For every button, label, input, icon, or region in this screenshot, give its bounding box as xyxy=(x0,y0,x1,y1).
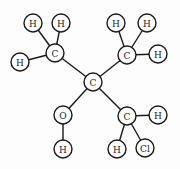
atom-label: O xyxy=(59,111,66,121)
atom-h_ur_1: H xyxy=(107,14,125,32)
atom-label: H xyxy=(16,58,24,68)
atom-h_ul_3: H xyxy=(11,53,29,71)
atom-cl: Cl xyxy=(136,139,154,157)
atom-h_ur_2: H xyxy=(138,14,156,32)
atom-h_ul_2: H xyxy=(52,14,70,32)
atom-label: H xyxy=(143,19,151,29)
atom-label: H xyxy=(59,145,67,155)
atom-c_center: C xyxy=(84,73,102,91)
atom-h_ur_3: H xyxy=(149,45,167,63)
atom-c_lr: C xyxy=(118,107,136,125)
atom-label: C xyxy=(124,51,131,61)
atom-c_ul: C xyxy=(46,44,64,62)
atom-o: O xyxy=(54,106,72,124)
atom-h_ul_1: H xyxy=(24,14,42,32)
atom-label: H xyxy=(113,145,121,155)
atom-h_lr_1: H xyxy=(149,106,167,124)
atom-label: C xyxy=(124,112,131,122)
atom-label: Cl xyxy=(140,144,150,154)
atoms-layer: CCHHHCHHHOHCHHCl xyxy=(11,14,167,158)
atom-label: H xyxy=(154,111,162,121)
atom-c_ur: C xyxy=(118,46,136,64)
atom-label: C xyxy=(52,49,59,59)
atom-h_lr_2: H xyxy=(108,140,126,158)
molecule-svg: CCHHHCHHHOHCHHCl xyxy=(0,0,180,169)
atom-h_o: H xyxy=(54,140,72,158)
molecule-diagram: CCHHHCHHHOHCHHCl xyxy=(0,0,180,169)
atom-label: C xyxy=(90,78,97,88)
atom-label: H xyxy=(112,19,120,29)
atom-label: H xyxy=(154,50,162,60)
atom-label: H xyxy=(57,19,65,29)
atom-label: H xyxy=(29,19,37,29)
